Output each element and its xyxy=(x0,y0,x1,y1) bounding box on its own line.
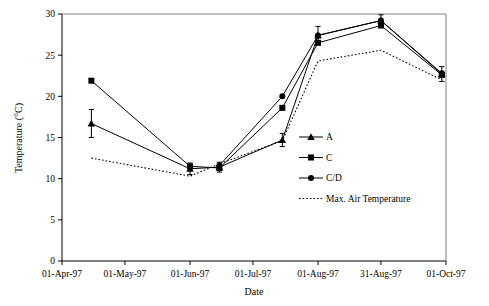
legend-marker-swatch xyxy=(308,155,314,161)
y-tick-label: 10 xyxy=(46,174,56,184)
y-tick-label: 15 xyxy=(46,133,56,143)
x-tick-label: 01-Apr-97 xyxy=(42,269,82,279)
x-tick-label: 31-Aug-97 xyxy=(360,269,402,279)
legend-marker-swatch xyxy=(308,175,314,181)
x-axis-title: Date xyxy=(245,286,264,297)
x-tick-label: 01-Jun-97 xyxy=(171,269,210,279)
data-point-marker xyxy=(315,32,321,38)
legend-label: A xyxy=(326,132,333,142)
data-point-marker xyxy=(88,78,94,84)
y-tick-label: 30 xyxy=(46,9,56,19)
data-point-marker xyxy=(187,163,193,169)
data-point-marker xyxy=(378,18,384,24)
data-point-marker xyxy=(279,93,285,99)
x-tick-label: 01-Aug-97 xyxy=(297,269,339,279)
chart-background xyxy=(0,0,489,306)
x-tick-label: 01-Jul-97 xyxy=(235,269,272,279)
y-tick-label: 5 xyxy=(50,215,55,225)
x-tick-label: 01-Oct-97 xyxy=(426,269,465,279)
data-point-marker xyxy=(439,70,445,76)
data-point-marker xyxy=(279,105,285,111)
chart-figure: 051015202530 01-Apr-9701-May-9701-Jun-97… xyxy=(0,0,489,306)
y-tick-label: 0 xyxy=(50,256,55,266)
legend-label: C/D xyxy=(326,173,342,183)
y-tick-label: 25 xyxy=(46,51,56,61)
x-tick-label: 01-May-97 xyxy=(104,269,147,279)
y-tick-label: 20 xyxy=(46,92,56,102)
legend-label: C xyxy=(326,153,332,163)
legend-label: Max. Air Temperature xyxy=(326,194,410,204)
temperature-line-chart: 051015202530 01-Apr-9701-May-9701-Jun-97… xyxy=(0,0,489,306)
data-point-marker xyxy=(315,40,321,46)
y-axis-title: Temperature (°C) xyxy=(13,103,25,173)
